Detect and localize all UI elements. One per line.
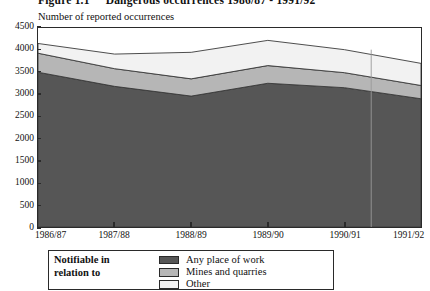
- y-tick-mark: [37, 93, 41, 94]
- legend-item-other: Other: [159, 279, 266, 291]
- legend-items: Any place of workMines and quarriesOther: [159, 254, 266, 291]
- figure-title: Figure 1.1Dangerous occurrences 1986/87 …: [38, 0, 316, 6]
- x-tick-mark: [267, 222, 268, 228]
- x-tick-label: 1988/89: [176, 230, 207, 240]
- x-tick-mark: [190, 222, 191, 228]
- y-tick-label: 500: [0, 201, 34, 211]
- y-tick-mark: [37, 26, 41, 27]
- y-tick-label: 1000: [0, 178, 34, 188]
- legend-swatch-mines-and-quarries: [159, 268, 179, 277]
- legend: Notifiable in relation to Any place of w…: [48, 250, 334, 290]
- area-layers: [38, 40, 421, 227]
- y-tick-label: 4000: [0, 44, 34, 54]
- legend-label: Mines and quarries: [186, 267, 266, 278]
- y-axis-caption: Number of reported occurrences: [38, 11, 174, 22]
- x-tick-mark: [344, 222, 345, 228]
- y-tick-mark: [37, 71, 41, 72]
- figure-title-text: Dangerous occurrences 1986/87 - 1991/92: [106, 0, 316, 6]
- x-tick-label: 1986/87: [35, 230, 66, 240]
- x-tick-label: 1987/88: [99, 230, 130, 240]
- x-tick-label: 1990/91: [330, 230, 361, 240]
- legend-title: Notifiable in relation to: [54, 254, 144, 279]
- plot-area: [37, 27, 422, 228]
- y-tick-mark: [37, 183, 41, 184]
- y-tick-label: 2500: [0, 111, 34, 121]
- legend-label: Any place of work: [186, 255, 264, 266]
- y-axis: 050010001500200025003000350040004500: [0, 0, 34, 287]
- legend-item-any-place-of-work: Any place of work: [159, 254, 266, 266]
- y-tick-label: 3000: [0, 89, 34, 99]
- x-tick-label: 1989/90: [253, 230, 284, 240]
- y-tick-mark: [37, 138, 41, 139]
- legend-swatch-other: [159, 280, 179, 289]
- y-tick-mark: [37, 116, 41, 117]
- y-tick-label: 2000: [0, 134, 34, 144]
- stacked-area-chart: [38, 28, 421, 227]
- y-tick-label: 1500: [0, 156, 34, 166]
- y-tick-mark: [37, 205, 41, 206]
- x-tick-label: 1991/92: [393, 230, 424, 240]
- legend-label: Other: [186, 279, 210, 290]
- y-tick-mark: [37, 160, 41, 161]
- legend-item-mines-and-quarries: Mines and quarries: [159, 266, 266, 278]
- y-tick-label: 4500: [0, 22, 34, 32]
- y-tick-label: 3500: [0, 67, 34, 77]
- figure-number: Figure 1.1: [38, 0, 90, 6]
- area-band: [38, 72, 421, 227]
- y-tick-label: 0: [0, 223, 34, 233]
- x-tick-mark: [113, 222, 114, 228]
- legend-swatch-any-place-of-work: [159, 256, 179, 265]
- y-tick-mark: [37, 49, 41, 50]
- y-tick-mark: [37, 227, 41, 228]
